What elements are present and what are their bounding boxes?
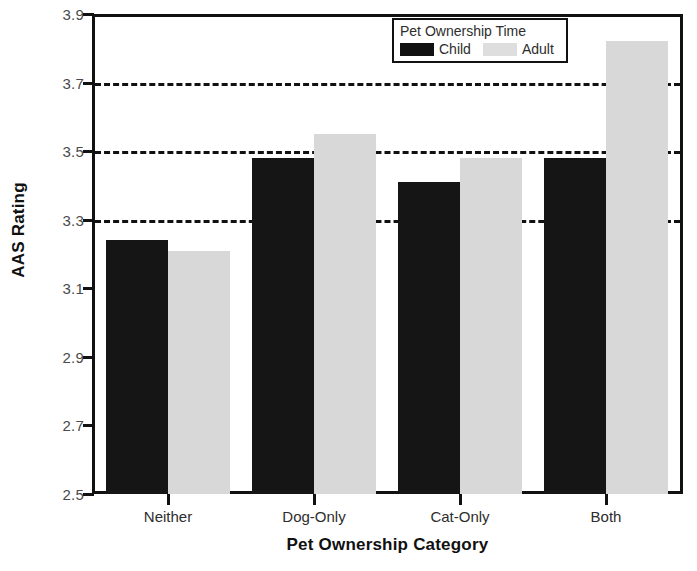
y-axis-tick-labels: 2.52.72.93.13.33.53.73.9 bbox=[42, 0, 84, 571]
bar-dog-only-adult bbox=[314, 134, 376, 494]
x-axis-tick-label: Both bbox=[591, 508, 622, 525]
bar-both-child bbox=[544, 158, 606, 494]
legend-label: Child bbox=[439, 41, 471, 57]
bar-both-adult bbox=[606, 41, 668, 494]
legend-title: Pet Ownership Time bbox=[400, 23, 560, 39]
bar-cat-only-adult bbox=[460, 158, 522, 494]
bars-layer bbox=[92, 14, 683, 494]
x-axis-tick-mark bbox=[605, 494, 608, 505]
legend-swatch-child bbox=[400, 43, 434, 56]
bar-neither-adult bbox=[168, 251, 230, 494]
x-axis-tick-label: Dog-Only bbox=[282, 508, 345, 525]
x-axis-tick-mark bbox=[167, 494, 170, 505]
y-axis-tick-label: 3.3 bbox=[63, 211, 84, 228]
y-axis-tick-label: 2.5 bbox=[63, 486, 84, 503]
legend-entry-child: Child bbox=[400, 41, 471, 57]
x-axis-tick-mark bbox=[313, 494, 316, 505]
y-axis-tick-label: 3.1 bbox=[63, 280, 84, 297]
legend-entries: ChildAdult bbox=[400, 41, 560, 57]
bar-cat-only-child bbox=[398, 182, 460, 494]
legend-swatch-adult bbox=[483, 43, 517, 56]
y-axis-tick-label: 3.7 bbox=[63, 74, 84, 91]
x-axis-tick-mark bbox=[459, 494, 462, 505]
x-axis-tick-label: Neither bbox=[144, 508, 192, 525]
bar-chart-figure: 2.52.72.93.13.33.53.73.9 AAS Rating Neit… bbox=[0, 0, 697, 571]
x-axis-title: Pet Ownership Category bbox=[92, 535, 683, 555]
y-axis-tick-label: 2.9 bbox=[63, 348, 84, 365]
x-axis-tick-label: Cat-Only bbox=[430, 508, 489, 525]
y-axis-tick-label: 2.7 bbox=[63, 417, 84, 434]
y-axis-tick-label: 3.9 bbox=[63, 6, 84, 23]
legend-label: Adult bbox=[522, 41, 554, 57]
y-axis-tick-label: 3.5 bbox=[63, 143, 84, 160]
legend-entry-adult: Adult bbox=[483, 41, 554, 57]
bar-neither-child bbox=[106, 240, 168, 494]
bar-dog-only-child bbox=[252, 158, 314, 494]
legend: Pet Ownership Time ChildAdult bbox=[392, 18, 568, 63]
y-axis-title: AAS Rating bbox=[9, 135, 29, 325]
